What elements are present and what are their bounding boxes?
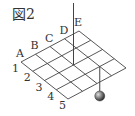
row-label: 2 [24,71,31,84]
column-label: D [60,24,69,37]
column-label: E [74,16,82,29]
column-label: C [45,32,53,45]
row-label: 4 [47,90,54,103]
grid-line [79,31,126,68]
grid-line [56,59,114,90]
grid-line [65,39,112,76]
pendulum-ball [95,91,105,101]
figure-title: 図2 [12,6,35,22]
row-label: 5 [59,99,66,112]
row-label: 1 [12,62,19,75]
row-label: 3 [36,81,43,94]
column-label: A [15,47,25,60]
column-label: B [31,39,39,52]
grid-diagram: 図2 ABCDE12345 [0,0,135,116]
